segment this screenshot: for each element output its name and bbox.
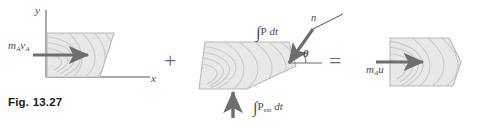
figure-caption: Fig. 13.27: [8, 96, 62, 108]
axis-x-label: x: [151, 73, 156, 84]
block-middle: [196, 39, 298, 95]
axis-y-label: y: [35, 5, 40, 16]
momentum-label-left: mAvA: [8, 40, 30, 53]
momentum-label-right: mAu: [366, 64, 384, 77]
figure-graphics: [0, 0, 479, 126]
impulse-label-Pext: ∫Pext dt: [253, 100, 283, 117]
figure-canvas: y x mAvA ∫P dt ∫Pext dt n θ mAu + = Fig.…: [0, 0, 479, 126]
plus-operator: +: [164, 50, 176, 72]
impulse-label-P: ∫P dt: [256, 25, 278, 42]
angle-label-theta: θ: [303, 49, 308, 60]
equals-operator: =: [329, 50, 341, 72]
normal-label-n: n: [311, 13, 316, 24]
impulse-arrow-P: [289, 29, 313, 63]
normal-line-n: [313, 14, 343, 29]
